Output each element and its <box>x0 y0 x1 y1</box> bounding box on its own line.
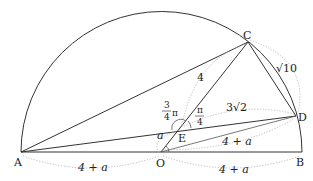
label-cd-length: √10 <box>276 62 297 75</box>
label-b: B <box>296 156 304 169</box>
label-o: O <box>156 157 165 170</box>
label-ao-length: 4 + a <box>77 161 108 174</box>
angle-ced-den: 4 <box>197 117 203 127</box>
label-d: D <box>298 111 307 124</box>
angle-aec-den: 4 <box>164 112 170 122</box>
label-c: C <box>243 29 251 42</box>
label-e: E <box>178 132 186 145</box>
angle-aec-num: 3 <box>164 100 170 110</box>
angle-arc-aec <box>172 119 186 130</box>
angle-arc-o <box>166 146 169 152</box>
geometry-diagram: C D A O B E 4 √10 3√2 4 + a 4 + a 4 + a … <box>0 0 313 181</box>
angle-ced-num: π <box>197 105 203 115</box>
angle-arc-ced <box>188 121 191 128</box>
label-ob-length: 4 + a <box>218 163 249 176</box>
label-a: A <box>13 156 23 169</box>
label-oc-length: 4 <box>197 71 204 84</box>
label-a-length: a <box>157 129 164 142</box>
chord-ac <box>21 42 248 152</box>
angle-aec-pi: π <box>172 108 178 118</box>
label-od-length: 4 + a <box>221 135 252 148</box>
label-ed-length: 3√2 <box>226 101 247 114</box>
chord-cd <box>248 42 296 116</box>
